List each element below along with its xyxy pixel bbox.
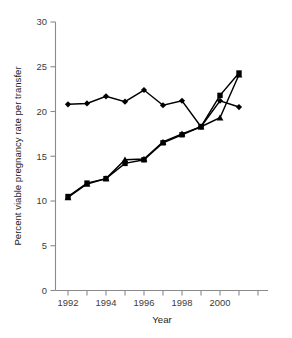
pregnancy-rate-line-chart: 051015202530 19921994199619982000 Percen…: [0, 0, 292, 338]
y-tick-label: 5: [42, 240, 47, 251]
data-point-square: [217, 93, 222, 98]
x-tick-label: 1996: [134, 297, 155, 308]
x-axis-title: Year: [152, 314, 172, 325]
y-tick-label: 15: [37, 151, 47, 162]
x-tick-label: 1994: [96, 297, 117, 308]
y-axis-title: Percent viable pregnancy rate per transf…: [12, 66, 23, 246]
x-tick-label: 1998: [172, 297, 193, 308]
x-tick-label: 1992: [58, 297, 79, 308]
x-tick-label: 2000: [210, 297, 231, 308]
y-tick-label: 10: [37, 195, 47, 206]
y-tick-label: 20: [37, 106, 47, 117]
y-tick-label: 0: [42, 285, 47, 296]
y-tick-label: 25: [37, 61, 47, 72]
y-tick-label: 30: [37, 16, 47, 27]
